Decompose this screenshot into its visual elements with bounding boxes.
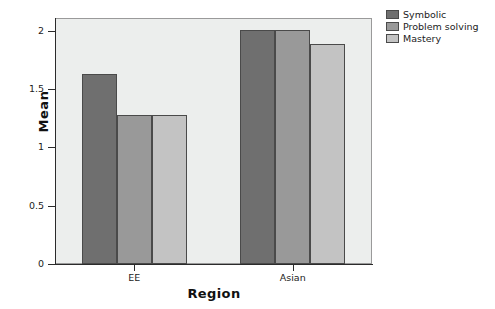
legend-item: Problem solving <box>386 21 492 32</box>
bar <box>117 115 152 264</box>
y-axis-line <box>55 18 56 265</box>
x-tick-label: EE <box>94 272 174 283</box>
bar <box>240 30 275 264</box>
legend: SymbolicProblem solvingMastery <box>386 9 492 45</box>
y-tick-label: 1.5 <box>4 83 44 94</box>
bar <box>310 44 345 264</box>
y-tick <box>48 89 55 90</box>
y-tick-label: 0.5 <box>4 200 44 211</box>
x-tick <box>134 265 135 271</box>
legend-item: Symbolic <box>386 9 492 20</box>
y-tick <box>48 206 55 207</box>
bar <box>82 74 117 264</box>
x-tick <box>293 265 294 271</box>
legend-item: Mastery <box>386 33 492 44</box>
y-tick-label: 1 <box>4 141 44 152</box>
legend-swatch-icon <box>386 10 399 19</box>
y-tick-label: 2 <box>4 25 44 36</box>
legend-swatch-icon <box>386 34 399 43</box>
x-tick-label: Asian <box>253 272 333 283</box>
bar <box>152 115 187 264</box>
x-axis-title: Region <box>55 286 373 301</box>
y-tick-label: 0 <box>4 258 44 269</box>
bar <box>275 30 310 264</box>
y-tick <box>48 264 55 265</box>
y-tick <box>48 31 55 32</box>
legend-item-label: Symbolic <box>403 9 446 20</box>
legend-item-label: Mastery <box>403 33 441 44</box>
legend-item-label: Problem solving <box>403 21 479 32</box>
y-tick <box>48 147 55 148</box>
bar-chart-figure: Mean 00.511.52 EEAsian Region SymbolicPr… <box>0 0 495 309</box>
x-axis-line <box>55 264 373 265</box>
legend-swatch-icon <box>386 22 399 31</box>
